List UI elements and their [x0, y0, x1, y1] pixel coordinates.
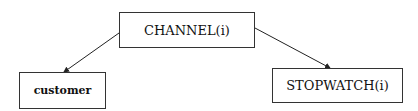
edge-channel-stopwatch: [255, 28, 330, 68]
node-stopwatch: STOPWATCH(i): [272, 68, 403, 103]
node-channel-label: CHANNEL(i): [144, 23, 230, 38]
node-stopwatch-label: STOPWATCH(i): [286, 78, 389, 93]
node-customer-label: customer: [34, 84, 92, 97]
node-customer: customer: [19, 72, 106, 109]
node-channel: CHANNEL(i): [119, 12, 255, 48]
edge-channel-customer: [64, 33, 119, 72]
